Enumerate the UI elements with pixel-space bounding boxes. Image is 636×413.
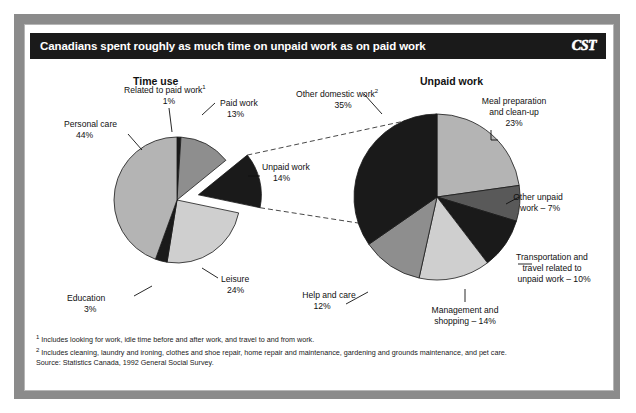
label-help-and-care-value: 12% — [313, 301, 331, 311]
leader-line — [202, 268, 218, 278]
pie-slice — [167, 200, 239, 263]
label-personal-care-name: Personal care — [64, 119, 117, 129]
label-other-unpaid-line1: Other unpaid — [513, 192, 563, 202]
label-paid-work-value: 13% — [227, 109, 245, 119]
footnote-1-text: Includes looking for work, idle time bef… — [39, 335, 314, 344]
label-other-domestic-work-value: 35% — [334, 100, 352, 110]
label-leisure-name: Leisure — [221, 274, 249, 284]
label-transport-line1: Transportation and — [516, 252, 588, 262]
label-transport-line3: unpaid work – 10% — [517, 274, 590, 284]
label-meal-prep-line1: Meal preparation — [482, 96, 547, 106]
label-education-value: 3% — [84, 304, 97, 314]
label-leisure-value: 24% — [227, 285, 245, 295]
pie-chart-unpaid-work — [354, 114, 520, 280]
label-meal-prep-line2: and clean-up — [489, 107, 539, 117]
label-related-paid-work-value: 1% — [163, 96, 176, 106]
label-help-and-care-name: Help and care — [302, 290, 356, 300]
pie-chart-time-use — [114, 137, 261, 263]
label-other-domestic-work-name: Other domestic work2 — [296, 88, 379, 99]
label-unpaid-work-value: 14% — [273, 173, 291, 183]
footnote-2: 2 Includes cleaning, laundry and ironing… — [36, 346, 576, 359]
leader-line — [134, 286, 152, 296]
label-personal-care-value: 44% — [76, 130, 94, 140]
leader-line — [169, 108, 172, 132]
label-management-line2: shopping – 14% — [434, 316, 496, 326]
label-education-name: Education — [67, 293, 105, 303]
label-unpaid-work-name: Unpaid work — [262, 162, 310, 172]
label-other-unpaid-line2: work – 7% — [519, 203, 560, 213]
leader-line — [202, 103, 215, 115]
footnotes-block: 1 Includes looking for work, idle time b… — [36, 333, 576, 368]
footnote-1: 1 Includes looking for work, idle time b… — [36, 333, 576, 346]
footnote-2-text: Includes cleaning, laundry and ironing, … — [39, 348, 507, 357]
label-related-paid-work-name: Related to paid work1 — [124, 84, 206, 95]
label-paid-work-name: Paid work — [220, 98, 258, 108]
label-management-line1: Management and — [432, 305, 499, 315]
label-transport-line2: travel related to — [522, 263, 581, 273]
label-meal-prep-value: 23% — [505, 118, 523, 128]
leader-line — [128, 134, 142, 150]
source-line: Source: Statistics Canada, 1992 General … — [36, 358, 576, 368]
